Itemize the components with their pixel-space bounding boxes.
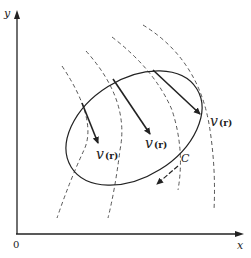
vector-label-1: v (r) — [96, 146, 118, 162]
contour-direction-arrow-icon — [157, 166, 178, 184]
svg-text:v: v — [145, 135, 153, 151]
contour-label: C — [181, 152, 190, 165]
svg-text:v: v — [210, 113, 218, 129]
vector-field-diagram: y x 0 v (r) v (r) v (r) C — [0, 0, 251, 258]
contour-c — [45, 47, 222, 209]
field-line-3 — [112, 37, 180, 190]
svg-text:(r): (r) — [219, 118, 232, 128]
field-line-1 — [57, 66, 88, 218]
y-axis-label: y — [3, 7, 11, 20]
svg-text:(r): (r) — [154, 140, 167, 150]
field-line-2 — [86, 51, 122, 218]
svg-text:(r): (r) — [105, 151, 118, 161]
vector-label-3: v (r) — [210, 113, 232, 129]
field-lines — [57, 25, 215, 218]
vectors — [82, 70, 200, 143]
vector-arrow-1 — [82, 103, 98, 143]
svg-text:v: v — [96, 146, 104, 162]
x-axis-arrow-icon — [235, 231, 244, 237]
y-axis-arrow-icon — [14, 10, 20, 19]
origin-label: 0 — [13, 239, 19, 250]
vector-label-2: v (r) — [145, 135, 167, 151]
x-axis-label: x — [237, 239, 244, 252]
